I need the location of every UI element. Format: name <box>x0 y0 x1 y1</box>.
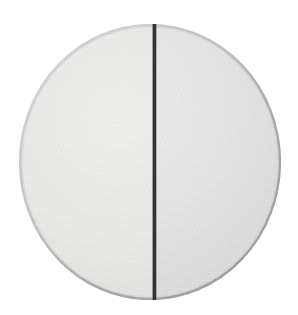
image-canvas <box>0 0 298 315</box>
disc-svg <box>19 24 281 300</box>
divider-line <box>153 24 156 300</box>
disc <box>19 24 281 300</box>
